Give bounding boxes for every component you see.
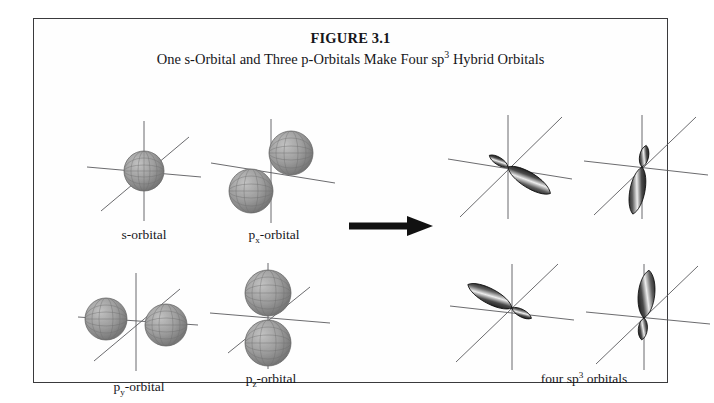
transformation-arrow (347, 215, 435, 237)
pz-orbital-label: pz-orbital (206, 371, 336, 387)
sp3-orbital-4-graphic (586, 262, 714, 374)
s-orbital-diagram: s-orbital (79, 115, 209, 227)
sp3-4-major-lobe (636, 269, 657, 318)
px-orbital-diagram: px-orbital (209, 115, 339, 227)
pz-orbital-label-suffix: -orbital (257, 371, 297, 386)
arrow-head (407, 216, 433, 236)
sp3-4-lobes (633, 269, 657, 340)
sp3-2-minor-lobe (638, 145, 651, 168)
sp3-3-major-lobe (464, 278, 515, 315)
sp3-orbital-2-diagram (582, 111, 712, 223)
py-orbital-label: py-orbital (74, 379, 204, 395)
sp3-orbital-3-graphic (450, 262, 580, 374)
pz-orbital-diagram: pz-orbital (206, 259, 336, 371)
sp3-orbital-1-diagram (446, 111, 576, 223)
figure-caption: FIGURE 3.1 One s-Orbital and Three p-Orb… (34, 29, 667, 68)
axis-diagonal (594, 117, 696, 215)
sp3-group-label-after: orbitals (583, 371, 627, 386)
py-lobe-right (145, 304, 187, 346)
figure-border-frame: FIGURE 3.1 One s-Orbital and Three p-Orb… (33, 18, 668, 383)
four-sp3-orbitals-label: four sp3 orbitals (464, 371, 704, 387)
figure-title: One s-Orbital and Three p-Orbitals Make … (34, 50, 667, 68)
py-lobe-left (85, 298, 127, 340)
s-orbital-label: s-orbital (79, 227, 209, 243)
py-orbital-graphic (74, 267, 204, 379)
px-lobe-lower (229, 169, 273, 213)
pz-lobe-upper (245, 270, 291, 316)
sp3-orbital-1-graphic (446, 111, 576, 223)
py-orbital-label-suffix: -orbital (125, 379, 165, 394)
sp3-group-label-before: four sp (541, 371, 579, 386)
sp3-orbital-4-diagram (586, 262, 714, 374)
axis-diagonal (456, 264, 558, 362)
sp3-orbital-2-graphic (582, 111, 712, 223)
sp3-orbital-3-diagram (450, 262, 580, 374)
pz-orbital-graphic (206, 259, 336, 371)
py-orbital-diagram: py-orbital (74, 267, 204, 379)
sp3-4-minor-lobe (637, 318, 648, 341)
sp3-1-major-lobe (504, 161, 554, 200)
s-orbital-graphic (79, 115, 209, 227)
px-orbital-label-suffix: -orbital (260, 227, 300, 242)
figure-title-text-before: One s-Orbital and Three p-Orbitals Make … (157, 51, 445, 67)
s-orbital-sphere (124, 151, 164, 191)
px-orbital-graphic (209, 115, 339, 227)
px-orbital-label: px-orbital (209, 227, 339, 243)
figure-title-text-after: Hybrid Orbitals (449, 51, 544, 67)
pz-lobe-lower (245, 320, 291, 366)
s-orbital-label-suffix: -orbital (127, 227, 167, 242)
sp3-2-lobes (625, 144, 653, 216)
px-lobe-upper (269, 131, 313, 175)
sp3-3-lobes (464, 278, 535, 325)
figure-number: FIGURE 3.1 (34, 29, 667, 47)
sp3-2-major-lobe (625, 166, 649, 216)
